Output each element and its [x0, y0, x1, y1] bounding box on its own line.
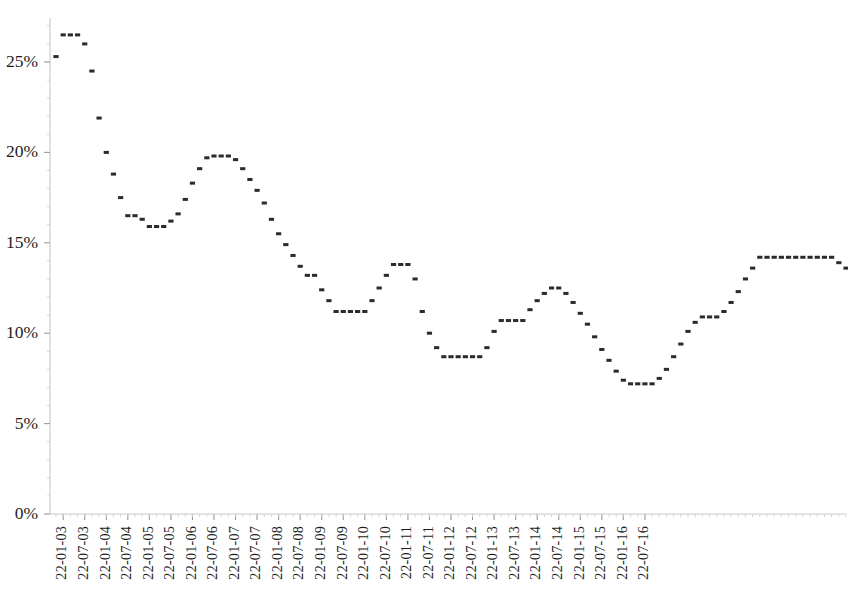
x-axis-tick-label: 22-01-05 [140, 526, 156, 580]
y-axis-tick-label: 25% [6, 51, 38, 71]
x-axis-tick-label: 22-07-12 [463, 526, 479, 580]
y-axis-tick-label: 15% [6, 232, 38, 252]
x-axis-tick-label: 22-07-10 [377, 526, 393, 580]
x-axis-tick-label: 22-07-09 [334, 526, 350, 580]
x-axis-tick-label: 22-01-12 [441, 526, 457, 580]
y-axis-tick-label: 5% [15, 413, 38, 433]
x-axis-tick-label: 22-07-06 [204, 526, 220, 580]
y-axis-tick-label: 20% [6, 141, 38, 161]
x-axis-tick-label: 22-07-15 [592, 526, 608, 580]
x-axis-tick-label: 22-01-14 [527, 526, 543, 580]
x-axis-tick-label: 22-01-15 [571, 526, 587, 580]
x-axis-tick-label: 22-07-16 [635, 526, 651, 580]
x-axis-tick-label: 22-07-05 [161, 526, 177, 580]
x-axis-tick-label: 22-07-11 [420, 526, 436, 579]
x-axis-tick-label: 22-01-03 [53, 526, 69, 580]
x-axis-tick-label: 22-07-14 [549, 526, 565, 580]
x-axis-tick-label: 22-01-10 [355, 526, 371, 580]
chart-container: 0%5%10%15%20%25%22-01-0322-07-0322-01-04… [0, 0, 848, 590]
x-axis-tick-label: 22-07-08 [290, 526, 306, 580]
y-axis-tick-label: 0% [15, 503, 38, 523]
x-axis-tick-label: 22-01-04 [97, 526, 113, 580]
x-axis-tick-label: 22-01-06 [183, 526, 199, 580]
x-axis-tick-label: 22-01-16 [614, 526, 630, 580]
x-axis-tick-label: 22-01-07 [226, 526, 242, 580]
x-axis-tick-label: 22-01-13 [484, 526, 500, 580]
chart-plot-area: 0%5%10%15%20%25%22-01-0322-07-0322-01-04… [0, 0, 848, 590]
y-axis-tick-label: 10% [6, 322, 38, 342]
data-series [53, 35, 848, 384]
x-axis-tick-label: 22-01-08 [269, 526, 285, 580]
x-axis-tick-label: 22-07-13 [506, 526, 522, 580]
x-axis-tick-label: 22-07-04 [118, 526, 134, 580]
x-axis-tick-label: 22-07-03 [75, 526, 91, 580]
x-axis-tick-label: 22-01-09 [312, 526, 328, 580]
x-axis-tick-label: 22-07-07 [247, 526, 263, 580]
x-axis-tick-label: 22-01-11 [398, 526, 414, 579]
